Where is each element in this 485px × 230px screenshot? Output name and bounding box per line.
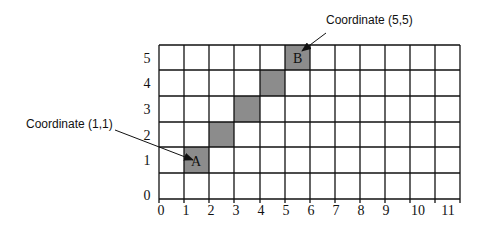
y-label-4: 4	[144, 76, 151, 91]
y-label-0: 0	[144, 188, 151, 203]
cell-label-a: A	[191, 154, 202, 169]
shaded-cells	[184, 45, 310, 173]
x-label-8: 8	[358, 203, 365, 218]
shaded-cell-4	[260, 70, 285, 96]
shaded-cell-3	[234, 96, 260, 122]
y-label-2: 2	[144, 128, 151, 143]
callout-label-b: Coordinate (5,5)	[326, 13, 413, 27]
cell-label-b: B	[293, 51, 302, 66]
x-axis-labels: 0 1 2 3 4 5 6 7 8 9 10 11	[158, 203, 455, 218]
y-axis-labels: 5 4 3 2 1 0	[144, 51, 151, 203]
y-label-5: 5	[144, 51, 151, 66]
y-label-3: 3	[144, 102, 151, 117]
callout-arrow-b	[302, 33, 326, 51]
coordinate-grid-diagram: 5 4 3 2 1 0 0 1 2 3 4 5 6 7 8 9 10 11 A …	[0, 0, 485, 230]
x-label-7: 7	[333, 203, 340, 218]
grid-lines	[159, 45, 460, 203]
x-label-4: 4	[258, 203, 265, 218]
x-label-10: 10	[411, 203, 425, 218]
x-label-11: 11	[441, 203, 454, 218]
x-label-3: 3	[233, 203, 240, 218]
x-label-6: 6	[308, 203, 315, 218]
shaded-cell-2	[209, 122, 234, 147]
x-label-5: 5	[283, 203, 290, 218]
x-label-2: 2	[208, 203, 215, 218]
x-label-9: 9	[383, 203, 390, 218]
callout-label-a: Coordinate (1,1)	[26, 117, 113, 131]
callout-arrow-a	[115, 130, 193, 160]
y-label-1: 1	[144, 153, 151, 168]
x-label-1: 1	[183, 203, 190, 218]
x-label-0: 0	[158, 203, 165, 218]
